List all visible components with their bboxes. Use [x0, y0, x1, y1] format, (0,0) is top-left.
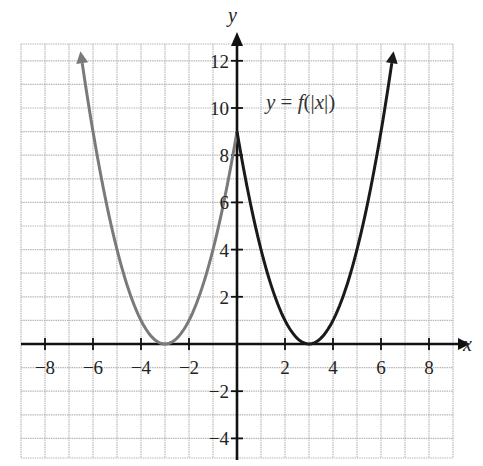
y-tick-label: 8 [220, 145, 230, 166]
y-tick-label: 10 [210, 98, 229, 119]
y-tick-label: −2 [209, 381, 229, 402]
curve-right-arrow-icon [386, 51, 398, 64]
curve-left-arrow-icon [76, 51, 88, 64]
y-tick-label: 2 [220, 287, 230, 308]
x-tick-label: −4 [131, 357, 152, 378]
x-tick-label: 8 [424, 357, 434, 378]
x-tick-label: −2 [179, 357, 199, 378]
y-tick-label: 6 [220, 192, 230, 213]
y-axis-label: y [226, 4, 237, 27]
y-tick-label: 12 [210, 51, 229, 72]
x-tick-label: 2 [280, 357, 290, 378]
y-tick-label: −4 [209, 428, 230, 449]
function-graph: −8−6−4−22468−4−224681012 x y y = f(|x|) [0, 0, 483, 466]
equation-label: y = f(|x|) [264, 90, 335, 114]
x-axis-label: x [462, 333, 472, 355]
y-axis-arrow-icon [231, 32, 243, 46]
x-tick-label: −8 [35, 357, 55, 378]
x-tick-label: 6 [376, 357, 386, 378]
x-tick-label: −6 [83, 357, 103, 378]
x-tick-label: 4 [328, 357, 338, 378]
y-tick-label: 4 [220, 240, 230, 261]
